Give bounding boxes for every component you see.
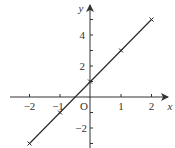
- y-tick-label: 4: [80, 29, 86, 41]
- marker-x-icon: [119, 49, 123, 53]
- origin-label: O: [80, 100, 88, 112]
- coordinate-plot: −2 −1 1 2 O 4 2 −2 x y: [0, 0, 175, 148]
- marker-x-icon: [28, 142, 32, 146]
- y-tick-label: 2: [80, 60, 86, 72]
- x-axis-label: x: [167, 100, 173, 112]
- x-tick-label: 2: [149, 100, 155, 112]
- y-tick-label: −2: [75, 122, 87, 134]
- marker-x-icon: [150, 18, 154, 22]
- x-tick-label: −2: [24, 100, 36, 112]
- y-axis-label: y: [78, 2, 84, 14]
- x-tick-label: 1: [118, 100, 124, 112]
